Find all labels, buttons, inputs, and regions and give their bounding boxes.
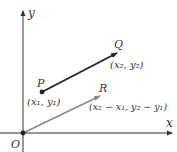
point-p-dot — [40, 90, 45, 95]
origin-dot — [21, 131, 26, 136]
y-axis-label: y — [27, 6, 35, 20]
x-axis-label: x — [166, 116, 173, 130]
point-q-label: Q — [114, 38, 123, 51]
point-r-label: R — [98, 82, 107, 95]
origin-label: O — [11, 138, 20, 151]
point-p-label: P — [36, 77, 45, 90]
point-r-coords: (x₂ − x₁, y₂ − y₁) — [89, 101, 167, 112]
point-p-coords: (x₁, y₁) — [27, 96, 61, 107]
point-q-coords: (x₂, y₂) — [110, 59, 144, 70]
vector-diagram: y x O P (x₁, y₁) Q (x₂, y₂) R (x₂ − x₁, … — [0, 0, 177, 152]
